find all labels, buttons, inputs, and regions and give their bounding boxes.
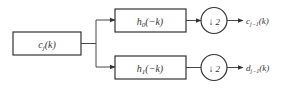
downsample-upper	[201, 8, 227, 34]
downsample-lower	[201, 55, 227, 81]
filter-h0-label: h0(−k)	[137, 16, 164, 29]
output-d-label: dj−1(k)	[246, 63, 269, 74]
output-c-label: cj−1(k)	[246, 16, 269, 27]
downsample-arrow-icon: ↓	[209, 63, 214, 74]
diagram-svg: cj(k) h0(−k) ↓ 2 cj−1(k) h1(−k) ↓	[0, 0, 282, 92]
filter-h1-label: h1(−k)	[137, 63, 164, 76]
branch-highpass: h1(−k) ↓ 2 dj−1(k)	[115, 55, 269, 81]
downsample-factor: 2	[216, 64, 221, 74]
downsample-factor: 2	[216, 17, 221, 27]
filter-bank-diagram: cj(k) h0(−k) ↓ 2 cj−1(k) h1(−k) ↓	[0, 0, 282, 92]
split-connector	[81, 20, 115, 67]
input-label: cj(k)	[38, 39, 56, 52]
branch-lowpass: h0(−k) ↓ 2 cj−1(k)	[115, 8, 269, 34]
downsample-arrow-icon: ↓	[209, 16, 214, 27]
input-block: cj(k)	[13, 32, 81, 55]
